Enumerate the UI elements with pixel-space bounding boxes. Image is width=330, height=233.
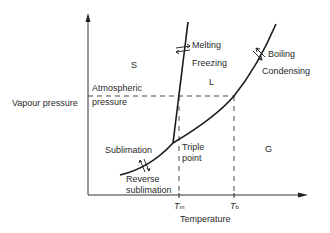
tm-subscript: m xyxy=(180,204,185,210)
triple-point-line1: Triple xyxy=(182,142,204,152)
melting-label: Melting xyxy=(192,40,221,50)
melting-curve xyxy=(173,22,188,143)
region-gas-label: G xyxy=(265,144,272,154)
y-axis-arrow-icon xyxy=(86,13,91,22)
freezing-label: Freezing xyxy=(192,58,227,68)
sublimation-label: Sublimation xyxy=(105,145,152,155)
reverse-sublimation-line1: Reverse xyxy=(126,174,160,184)
phase-diagram-canvas xyxy=(0,0,330,233)
boiling-label: Boiling xyxy=(268,49,295,59)
melting-arrows-icon xyxy=(176,44,190,54)
triple-point-line2: point xyxy=(182,153,202,163)
tb-label: Tb xyxy=(230,201,239,212)
reverse-sublimation-line2: sublimation xyxy=(126,185,172,195)
condensing-label: Condensing xyxy=(262,66,310,76)
atmospheric-label-line2: pressure xyxy=(92,97,127,107)
tb-subscript: b xyxy=(236,204,239,210)
boiling-curve xyxy=(173,24,276,143)
x-axis-arrow-icon xyxy=(298,193,308,198)
atmospheric-label-line1: Atmospheric xyxy=(92,83,142,93)
region-liquid-label: L xyxy=(209,77,214,87)
region-solid-label: S xyxy=(131,60,137,70)
tm-label: Tm xyxy=(174,201,185,212)
y-axis-label: Vapour pressure xyxy=(12,98,78,108)
x-axis-label: Temperature xyxy=(180,214,231,224)
